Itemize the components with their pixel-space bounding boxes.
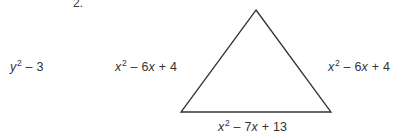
expression-extra-left: y2 – 3 bbox=[10, 60, 44, 74]
triangle-shape bbox=[181, 10, 331, 112]
expression-triangle-left-side: x2 – 6x + 4 bbox=[115, 60, 177, 74]
expression-triangle-right-side: x2 – 6x + 4 bbox=[328, 60, 390, 74]
expression-triangle-base: x2 – 7x + 13 bbox=[218, 120, 287, 134]
worksheet-page: 2. y2 – 3 x2 – 6x + 4 x2 – 6x + 4 x2 – 7… bbox=[0, 0, 418, 140]
